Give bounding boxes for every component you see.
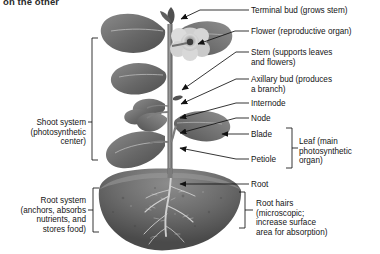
label-leaf: Leaf (main photosynthetic organ) — [299, 137, 377, 166]
label-terminal-bud: Terminal bud (grows stem) — [251, 6, 379, 16]
label-root-hairs: Root hairs (microscopic; increase surfac… — [256, 199, 376, 237]
label-root-system: Root system (anchors, absorbs nutrients,… — [2, 196, 86, 234]
plant-illustration — [95, 0, 245, 254]
cropped-heading-text: on the other — [3, 0, 59, 7]
label-axillary-bud: Axillary bud (produces a branch) — [251, 75, 375, 94]
terminal-bud-art — [160, 7, 175, 24]
label-shoot-system: Shoot system (photosynthetic center) — [10, 118, 86, 147]
label-root: Root — [251, 180, 311, 190]
plant-anatomy-diagram: on the other — [0, 0, 380, 254]
label-internode: Internode — [251, 99, 341, 109]
leaves-art — [101, 14, 233, 169]
label-stem: Stem (supports leaves and flowers) — [251, 48, 371, 67]
axillary-bud-art — [173, 96, 183, 101]
label-node: Node — [251, 114, 341, 124]
label-flower: Flower (reproductive organ) — [251, 27, 379, 37]
flower-art — [170, 28, 210, 62]
